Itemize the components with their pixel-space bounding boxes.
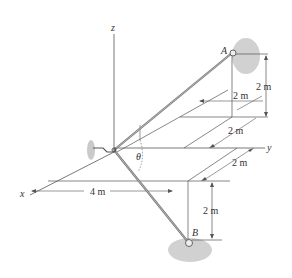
guide-upper-diag — [117, 90, 228, 152]
guide-lower-diag — [188, 148, 237, 181]
dim-a-height-label: 2 m — [256, 81, 272, 92]
dim-lower-label: 2 m — [232, 157, 248, 168]
guide-mid-diag — [184, 117, 232, 148]
support-origin-shade — [87, 140, 95, 160]
joint-b — [186, 240, 193, 247]
x-axis-label: x — [19, 188, 25, 199]
dim-mid-label: 2 m — [228, 125, 244, 136]
dim-b-depth-label: 2 m — [203, 205, 219, 216]
diagram-canvas: 2 m 2 m 2 m 2 m 2 m 4 m θ z y x A B — [0, 0, 292, 278]
z-axis-label: z — [110, 22, 115, 33]
point-b-label: B — [192, 227, 198, 238]
dim-upper-label: 2 m — [233, 90, 249, 101]
joint-a — [230, 50, 236, 56]
support-a-shade — [232, 38, 260, 74]
y-axis-label: y — [266, 142, 272, 153]
theta-label: θ — [136, 151, 141, 162]
point-a-label: A — [220, 45, 228, 56]
dim-x-label: 4 m — [90, 186, 106, 197]
